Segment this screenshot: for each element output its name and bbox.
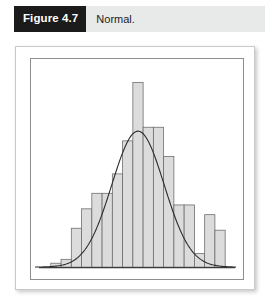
histogram-bar xyxy=(184,205,194,267)
histogram-bar xyxy=(133,83,143,268)
plot-frame xyxy=(30,58,244,280)
histogram-bar xyxy=(82,209,92,267)
figure-card xyxy=(15,46,255,290)
figure-number-label: Figure 4.7 xyxy=(14,6,86,32)
histogram-bar xyxy=(61,259,71,267)
histogram-chart xyxy=(31,59,243,279)
histogram-bar xyxy=(164,156,174,267)
figure-caption-text: Normal. xyxy=(86,6,135,32)
histogram-bar xyxy=(123,141,133,267)
histogram-bar xyxy=(215,230,225,267)
histogram-bar xyxy=(92,193,102,267)
histogram-bar xyxy=(102,193,112,267)
histogram-bar xyxy=(153,127,163,267)
histogram-bar xyxy=(112,174,122,267)
histogram-bars xyxy=(51,83,225,268)
figure-caption-band: Figure 4.7 Normal. xyxy=(14,6,265,32)
histogram-bar xyxy=(205,215,215,267)
